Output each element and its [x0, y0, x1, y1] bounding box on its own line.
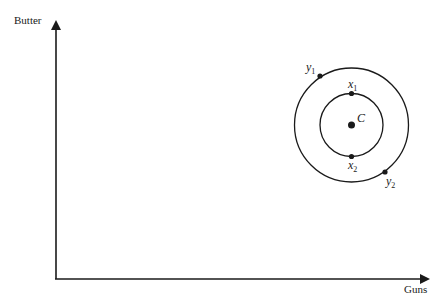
point-y1 [317, 73, 322, 78]
label-x2: x2 [348, 158, 357, 174]
center-label: C [357, 111, 365, 126]
label-y1: y1 [306, 60, 315, 76]
label-y2: y2 [386, 174, 395, 190]
y-axis-label: Butter [14, 14, 42, 26]
center-point [348, 122, 355, 129]
label-x1: x1 [348, 77, 357, 93]
x-axis-label: Guns [404, 283, 427, 295]
diagram-canvas [0, 0, 443, 308]
